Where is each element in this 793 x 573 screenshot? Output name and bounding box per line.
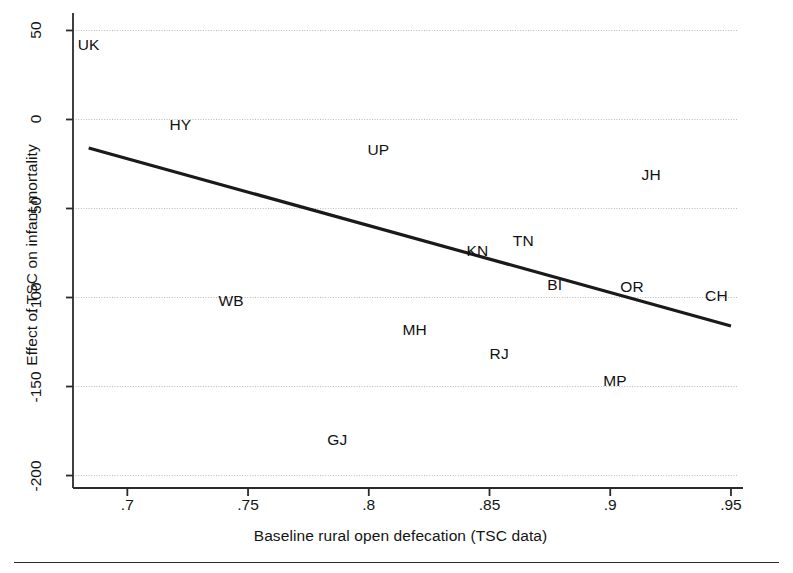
y-tick-label-text: 0 (27, 97, 45, 141)
y-tick-label-0: 50 (14, 21, 58, 39)
chart-figure: Effect of TSC on infant mortality Baseli… (0, 0, 793, 573)
y-tick-label-3: -100 (14, 289, 58, 307)
data-point-label-gj: GJ (327, 431, 347, 449)
x-tick-label-0: .7 (97, 496, 157, 514)
data-point-label-tn: TN (513, 232, 534, 250)
data-point-label-ch: CH (705, 287, 728, 305)
data-point-label-wb: WB (218, 292, 243, 310)
footer-rule (14, 562, 779, 563)
y-tick-label-text: 50 (27, 8, 45, 52)
y-tick-label-5: -200 (14, 467, 58, 485)
data-point-label-uk: UK (78, 36, 100, 54)
fit-line (89, 148, 731, 326)
data-point-label-kn: KN (466, 242, 488, 260)
data-point-label-hy: HY (169, 116, 191, 134)
x-tick-label-1: .75 (218, 496, 278, 514)
x-tick-label-2: .8 (339, 496, 399, 514)
x-tick-label-3: .85 (460, 496, 520, 514)
y-tick-label-text: -100 (27, 276, 45, 320)
y-tick-label-2: -50 (14, 199, 58, 217)
data-point-label-bi: BI (547, 276, 562, 294)
data-point-label-up: UP (367, 141, 389, 159)
y-tick-label-text: -150 (27, 365, 45, 409)
data-point-label-mh: MH (402, 321, 427, 339)
data-point-label-rj: RJ (489, 345, 508, 363)
data-point-label-mp: MP (603, 372, 627, 390)
x-tick-label-5: .95 (701, 496, 761, 514)
y-tick-label-4: -150 (14, 378, 58, 396)
data-point-label-jh: JH (642, 166, 661, 184)
plot-canvas (0, 0, 793, 573)
y-tick-label-text: -50 (27, 186, 45, 230)
y-tick-label-1: 0 (14, 110, 58, 128)
y-tick-label-text: -200 (27, 454, 45, 498)
x-tick-label-4: .9 (580, 496, 640, 514)
data-point-label-or: OR (620, 278, 644, 296)
